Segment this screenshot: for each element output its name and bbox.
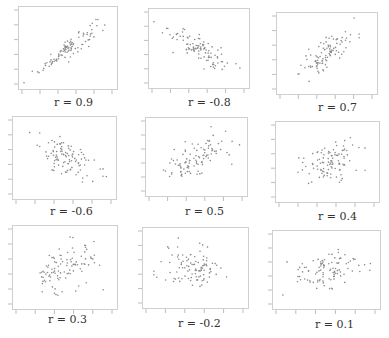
data-point [332,268,334,270]
data-point [203,68,205,70]
data-point [195,48,197,50]
data-point [191,49,193,51]
data-point [344,140,346,142]
data-point [65,171,67,173]
data-point [193,51,195,53]
data-point [321,60,323,62]
data-point [175,163,177,165]
data-point [177,256,179,258]
data-point [323,265,325,267]
correlation-label: r = 0.3 [48,313,87,326]
data-point [80,169,82,171]
data-point [91,29,93,31]
data-point [65,152,67,154]
data-point [70,261,72,263]
data-point [352,270,354,272]
data-point [306,59,308,61]
data-point [333,278,335,280]
data-point [319,177,321,179]
data-point [51,169,53,171]
scatter-panel [276,12,378,95]
data-point [221,141,223,143]
data-point [175,278,177,280]
data-point [227,62,229,64]
data-point [77,264,79,266]
data-point [341,41,343,43]
data-point [73,251,75,253]
data-point [321,152,323,154]
correlation-label: r = 0.9 [54,96,93,109]
data-point [338,160,340,162]
data-point [330,160,332,162]
data-point [344,282,346,284]
data-point [325,37,327,39]
data-point [189,269,191,271]
data-point [187,37,189,39]
data-point [316,165,318,167]
data-point [323,168,325,170]
data-point [210,126,212,128]
data-point [102,30,104,32]
data-point [334,272,336,274]
data-point [212,64,214,66]
data-point [333,48,335,50]
data-point [66,259,68,261]
plot-frame [146,118,248,197]
data-point [328,169,330,171]
data-point [239,144,241,146]
data-point [82,181,84,183]
data-point [172,38,174,40]
data-point [336,176,338,178]
data-point [77,51,79,53]
plot-frame [273,231,381,310]
scatter-panel [142,227,249,309]
data-point [320,265,322,267]
data-point [184,275,186,277]
data-point [70,259,72,261]
data-point [57,278,59,280]
data-point [195,45,197,47]
data-point [84,157,86,159]
data-point [190,280,192,282]
data-point [75,161,77,163]
data-point [69,273,71,275]
scatter-plot [12,6,120,98]
data-point [47,158,49,160]
data-point [84,263,86,265]
data-point [352,258,354,260]
data-point [171,254,173,256]
data-point [92,181,94,183]
data-point [322,276,324,278]
data-point [318,270,320,272]
data-point [47,272,49,274]
data-point [305,266,307,268]
data-point [179,165,181,167]
data-point [203,255,205,257]
data-point [302,169,304,171]
data-point [56,157,58,159]
data-point [51,63,53,65]
data-point [84,251,86,253]
data-point [71,44,73,46]
data-point [43,68,45,70]
data-point [193,264,195,266]
data-point [78,285,80,287]
data-point [106,176,108,178]
data-point [334,257,336,259]
data-point [77,47,79,49]
data-point [78,31,80,33]
data-point [217,49,219,51]
data-point [317,151,319,153]
data-point [197,164,199,166]
data-point [334,152,336,154]
data-point [186,167,188,169]
data-point [81,263,83,265]
data-point [317,281,319,283]
data-point [322,280,324,282]
data-point [343,273,345,275]
data-point [209,160,211,162]
data-point [47,267,49,269]
data-point [343,51,345,53]
data-point [202,267,204,269]
data-point [52,286,54,288]
